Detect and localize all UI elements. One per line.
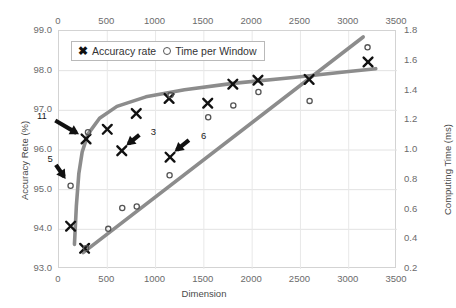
data-point-circle	[256, 89, 261, 94]
x-tick-top-1000: 1000	[144, 16, 165, 26]
plot-canvas	[59, 31, 397, 269]
legend-label-time-per-window: Time per Window	[175, 45, 256, 57]
data-point-circle	[231, 103, 236, 108]
trend-line-accuracy-trend	[74, 69, 375, 245]
x-tick-bottom-500: 500	[98, 274, 114, 284]
y2-tick-1.6: 1.6	[404, 55, 417, 65]
x-tick-bottom-3000: 3000	[337, 274, 358, 284]
x-marker-icon: ✖	[78, 45, 88, 57]
x-tick-bottom-0: 0	[55, 274, 60, 284]
annotation-label-3: 3	[151, 126, 156, 137]
y2-tick-0.6: 0.6	[404, 204, 417, 214]
circle-marker-icon	[163, 47, 171, 55]
y-tick-99.0: 99.0	[34, 25, 53, 35]
x-tick-top-1500: 1500	[192, 16, 213, 26]
y2-tick-0.4: 0.4	[404, 233, 417, 243]
y2-axis-title: Computing Time (ms)	[443, 124, 453, 215]
x-axis-title: Dimension	[182, 289, 227, 299]
data-point-circle	[307, 98, 312, 103]
x-tick-bottom-1000: 1000	[144, 274, 165, 284]
annotation-label-6: 6	[201, 130, 206, 141]
data-point-circle	[206, 115, 211, 120]
x-tick-top-500: 500	[98, 16, 114, 26]
x-tick-top-2500: 2500	[289, 16, 310, 26]
x-tick-bottom-3500: 3500	[385, 274, 406, 284]
y-tick-93.0: 93.0	[34, 263, 53, 273]
y2-tick-0.2: 0.2	[404, 263, 417, 273]
x-tick-bottom-2000: 2000	[241, 274, 262, 284]
x-tick-bottom-1500: 1500	[192, 274, 213, 284]
y2-tick-0.8: 0.8	[404, 174, 417, 184]
legend-item-accuracy-rate: ✖ Accuracy rate	[78, 45, 156, 57]
legend-item-time-per-window: Time per Window	[163, 45, 256, 57]
data-point-circle	[68, 183, 73, 188]
x-tick-top-0: 0	[55, 16, 60, 26]
y2-tick-1.2: 1.2	[404, 114, 417, 124]
y2-tick-1.8: 1.8	[404, 25, 417, 35]
x-tick-top-3000: 3000	[337, 16, 358, 26]
y2-tick-1.0: 1.0	[404, 144, 417, 154]
data-point-circle	[134, 204, 139, 209]
data-point-circle	[365, 45, 370, 50]
annotation-label-11: 11	[37, 110, 47, 121]
data-point-circle	[120, 205, 125, 210]
y-axis-title: Accuracy Rete (%)	[20, 121, 30, 200]
chart-container: ✖ Accuracy rate Time per Window 00500500…	[0, 0, 456, 308]
legend-label-accuracy-rate: Accuracy rate	[92, 45, 156, 57]
chart-legend: ✖ Accuracy rate Time per Window	[71, 41, 265, 61]
data-point-circle	[167, 173, 172, 178]
y-tick-94.0: 94.0	[34, 223, 53, 233]
y-tick-95.0: 95.0	[34, 184, 53, 194]
x-tick-bottom-2500: 2500	[289, 274, 310, 284]
plot-area	[58, 30, 396, 268]
y2-tick-1.4: 1.4	[404, 85, 417, 95]
y-tick-98.0: 98.0	[34, 65, 53, 75]
x-tick-top-2000: 2000	[241, 16, 262, 26]
trend-line-time-trend	[83, 37, 363, 253]
annotation-label-5: 5	[48, 153, 53, 164]
